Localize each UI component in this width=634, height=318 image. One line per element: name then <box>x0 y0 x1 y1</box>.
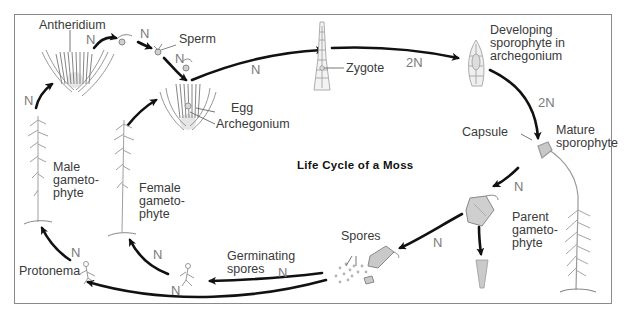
ploidy-male-to-antheridium: N <box>24 94 33 107</box>
arrow-open-capsule-to-lid <box>479 227 481 254</box>
ploidy-germinating-to-female: N <box>153 248 162 261</box>
ploidy-protonema-to-male: N <box>71 246 80 259</box>
zygote-illustration <box>314 22 344 90</box>
label-developing-sporophyte: Developing sporophyte in archegonium <box>490 24 565 63</box>
arrow-zygote-to-developing <box>332 47 458 58</box>
arrow-male-to-antheridium <box>36 84 52 108</box>
arrow-antheridium-to-sperm <box>94 37 116 48</box>
female-gametophyte-illustration <box>108 120 136 236</box>
ploidy-capsule-to-spores: N <box>433 236 442 249</box>
germinating-spores-illustration <box>180 264 194 287</box>
arrow-return-to-protonema <box>88 280 326 297</box>
protonema-illustration <box>80 262 95 285</box>
ploidy-spores-to-germinating: N <box>278 266 287 279</box>
ploidy-capsule-to-open: N <box>514 180 523 193</box>
ploidy-germinating-lower: N <box>171 284 180 297</box>
label-capsule: Capsule <box>462 126 508 139</box>
label-sperm: Sperm <box>179 33 216 46</box>
ploidy-sperm-release: N <box>140 27 149 40</box>
spore-capsule-illustration <box>364 246 399 284</box>
label-female-gametophyte: Female gameto- phyte <box>139 182 185 221</box>
ploidy-zygote-to-developing: 2N <box>406 56 423 69</box>
developing-sporophyte-illustration <box>469 40 484 86</box>
label-antheridium: Antheridium <box>39 19 106 32</box>
label-protonema: Protonema <box>19 265 80 278</box>
ploidy-antheridium-to-sperm: N <box>86 33 95 46</box>
arrow-protonema-to-male <box>42 228 70 260</box>
ploidy-sperm-to-egg: N <box>175 52 184 65</box>
arrow-capsule-to-spores <box>400 214 462 248</box>
label-spores: Spores <box>341 230 381 243</box>
arrow-sperm-to-sperm <box>138 42 151 48</box>
label-parent-gametophyte: Parent gameto- phyte <box>512 211 558 250</box>
label-egg: Egg <box>231 102 253 115</box>
spores-illustration <box>335 263 368 284</box>
label-male-gametophyte: Male gameto- phyte <box>53 161 99 200</box>
arrow-female-to-archegonium <box>128 100 156 125</box>
label-mature-sporophyte: Mature sporophyte <box>556 124 618 150</box>
ploidy-developing-to-mature: 2N <box>538 96 555 109</box>
archegonium-illustration <box>160 84 216 130</box>
male-gametophyte-illustration <box>24 116 52 224</box>
ploidy-archegonium-to-zygote: N <box>251 63 260 76</box>
label-archegonium: Archegonium <box>216 118 290 131</box>
capsule-lid-illustration <box>476 260 488 288</box>
open-capsule-illustration <box>466 195 498 226</box>
label-zygote: Zygote <box>346 62 384 75</box>
diagram-title: Life Cycle of a Moss <box>297 159 414 171</box>
